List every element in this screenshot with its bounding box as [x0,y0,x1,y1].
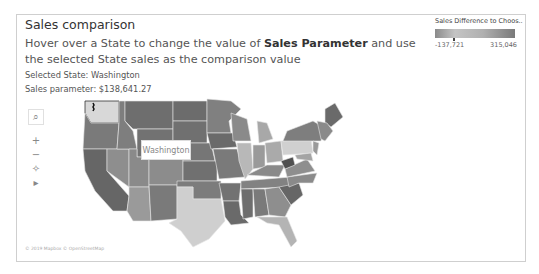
legend-min-label: -137,721 [435,41,464,49]
zoom-in-icon[interactable]: + [29,133,43,147]
state-florida[interactable] [257,217,297,247]
legend-gradient-bar [435,29,515,38]
dashboard-frame: Sales comparison Hover over a State to c… [16,14,526,262]
selected-state-text: Selected State: Washington [25,70,140,80]
state-new-jersey[interactable] [313,141,319,155]
dashboard-subtitle: Hover over a State to change the value o… [25,36,435,68]
expand-arrow-icon[interactable]: ▸ [29,175,43,189]
state-montana[interactable] [125,101,173,129]
state-wisconsin[interactable] [231,113,251,141]
state-arkansas[interactable] [219,183,241,201]
state-washington[interactable] [85,101,119,123]
state-mississippi[interactable] [241,189,253,219]
color-legend[interactable]: Sales Difference to Choos.. -137,721 315… [435,17,523,49]
state-new-york[interactable] [283,121,323,141]
map-toolbar: ⌕ + − ✧ ▸ [27,109,45,189]
state-ohio[interactable] [265,141,283,163]
zoom-out-icon[interactable]: − [29,147,43,161]
legend-marker [453,38,455,41]
legend-title: Sales Difference to Choos.. [435,17,523,25]
legend-max-label: 315,046 [490,41,517,49]
state-north-dakota[interactable] [173,101,207,121]
state-kansas[interactable] [183,161,217,181]
us-states-map[interactable] [81,91,411,251]
state-new-mexico[interactable] [149,185,177,221]
dashboard-title: Sales comparison [25,17,135,32]
search-icon[interactable]: ⌕ [28,109,44,125]
state-maine[interactable] [325,103,343,127]
subtitle-text: Hover over a State to change the value o… [25,37,264,50]
map-attribution[interactable]: © 2019 Mapbox © OpenStreetMap [25,246,104,251]
state-indiana[interactable] [253,145,265,169]
state-arizona[interactable] [127,187,151,221]
state-michigan[interactable] [257,121,273,143]
state-tooltip: Washington [141,140,191,160]
state-pennsylvania[interactable] [281,139,313,155]
sales-parameter-label: Sales Parameter [264,37,368,50]
pin-icon[interactable]: ✧ [29,161,43,175]
